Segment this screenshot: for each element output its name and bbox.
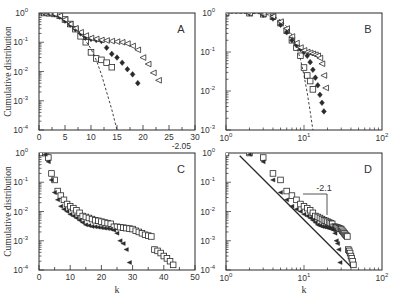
- tick-label: 10-2: [200, 85, 215, 96]
- x-tick-label: 15: [112, 132, 122, 142]
- plot-frame: [226, 153, 382, 270]
- x-tick-label: 10: [86, 132, 96, 142]
- triangle-marker: [58, 204, 62, 208]
- tick-label: 100: [202, 7, 215, 18]
- triangle-marker: [321, 73, 327, 79]
- x-axis-title: k: [115, 284, 120, 295]
- data-layer: [223, 10, 329, 130]
- y-axis-title: Cumulative distribution: [3, 166, 13, 257]
- triangle-marker: [52, 190, 56, 194]
- x-tick-label: 10: [65, 272, 75, 282]
- square-marker: [284, 188, 290, 194]
- square-marker: [270, 171, 276, 177]
- tick-label: 10-3: [200, 124, 215, 135]
- diamond-marker: [130, 72, 135, 78]
- tick-label: 100: [220, 272, 233, 283]
- diamond-marker: [310, 67, 315, 73]
- plot-frame: [39, 13, 195, 130]
- x-tick-label: 30: [128, 272, 138, 282]
- fit-line: [226, 13, 313, 130]
- tick-label: 100: [220, 132, 233, 143]
- triangle-marker: [338, 261, 342, 265]
- tick-label: 100: [15, 7, 28, 18]
- square-marker: [278, 177, 284, 183]
- tick-label: 10-4: [13, 124, 28, 135]
- square-marker: [304, 73, 310, 79]
- tick-label: 102: [376, 132, 389, 143]
- tick-label: 100: [15, 147, 28, 158]
- data-layer: [39, 150, 176, 267]
- x-tick-label: 0: [37, 272, 42, 282]
- x-axis-title: k: [302, 284, 307, 295]
- triangle-marker: [49, 178, 53, 182]
- x-tick-label: 50: [190, 272, 200, 282]
- panel-c: 0102030405010010-110-210-310-4C-2.05Cumu…: [3, 141, 200, 295]
- diamond-marker: [109, 51, 114, 57]
- slope-annotation: -2.05: [172, 141, 192, 151]
- square-marker: [307, 78, 313, 84]
- tick-label: 100: [202, 147, 215, 158]
- square-marker: [260, 155, 266, 161]
- figure-canvas: 05101520253010010-110-210-310-4ACumulati…: [0, 0, 397, 302]
- diamond-marker: [313, 75, 318, 81]
- tick-label: 10-3: [13, 95, 28, 106]
- triangle-marker: [140, 55, 146, 61]
- tick-label: 10-4: [200, 264, 215, 275]
- x-tick-label: 30: [190, 132, 200, 142]
- y-axis-title: Cumulative distribution: [3, 26, 13, 117]
- triangle-marker: [55, 198, 59, 202]
- tick-label: 102: [376, 272, 389, 283]
- triangle-marker: [298, 210, 302, 214]
- diamond-marker: [318, 92, 323, 98]
- triangle-marker: [271, 178, 275, 182]
- plot-frame: [226, 13, 382, 130]
- x-tick-label: 20: [97, 272, 107, 282]
- square-marker: [223, 150, 229, 156]
- data-layer: [39, 10, 161, 130]
- x-tick-label: 20: [138, 132, 148, 142]
- power-law-fit-line: [240, 156, 351, 267]
- tick-label: 101: [298, 132, 311, 143]
- triangle-marker: [124, 248, 128, 252]
- triangle-marker: [336, 248, 340, 252]
- x-tick-label: 5: [63, 132, 68, 142]
- tick-label: 10-1: [13, 36, 28, 47]
- diamond-marker: [320, 100, 325, 106]
- data-layer: [223, 150, 356, 267]
- square-marker: [104, 60, 110, 66]
- triangle-marker: [156, 78, 162, 84]
- panel-d: 10010110210010-110-210-310-4D-2.1k: [200, 147, 389, 295]
- square-marker: [109, 64, 115, 70]
- tick-label: 10-2: [13, 206, 28, 217]
- triangle-marker: [150, 70, 156, 76]
- square-marker: [351, 262, 357, 268]
- tick-label: 101: [298, 272, 311, 283]
- triangle-marker: [334, 239, 338, 243]
- diamond-marker: [120, 60, 125, 66]
- panel-label: C: [177, 163, 185, 175]
- tick-label: 10-2: [200, 206, 215, 217]
- tick-label: 10-3: [200, 235, 215, 246]
- x-tick-label: 40: [159, 272, 169, 282]
- tick-label: 10-1: [13, 176, 28, 187]
- square-marker: [49, 171, 55, 177]
- tick-label: 10-1: [200, 176, 215, 187]
- slope-annotation: -2.1: [316, 183, 332, 193]
- triangle-marker: [323, 85, 329, 91]
- square-marker: [345, 234, 351, 240]
- square-marker: [99, 57, 105, 63]
- square-marker: [149, 234, 155, 240]
- square-marker: [88, 50, 94, 56]
- square-marker: [93, 56, 99, 62]
- tick-label: 10-1: [200, 46, 215, 57]
- triangle-marker: [278, 190, 282, 194]
- panel-label: B: [364, 23, 371, 35]
- diamond-marker: [308, 59, 313, 65]
- triangle-marker: [319, 61, 325, 67]
- diamond-marker: [104, 45, 109, 51]
- triangle-marker: [145, 61, 151, 67]
- square-marker: [170, 262, 176, 268]
- diamond-marker: [322, 109, 327, 115]
- diamond-marker: [115, 55, 120, 61]
- panel-a: 05101520253010010-110-210-310-4ACumulati…: [3, 7, 200, 142]
